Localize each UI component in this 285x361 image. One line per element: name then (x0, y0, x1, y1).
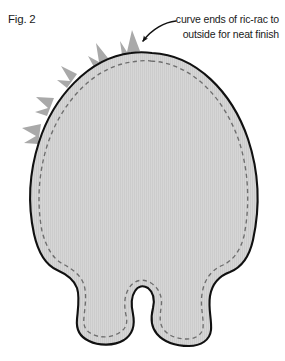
callout-text: curve ends of ric-rac to outside for nea… (176, 12, 279, 41)
pattern-diagram-svg (0, 0, 285, 361)
callout-line-1: curve ends of ric-rac to (176, 12, 279, 27)
callout-arrow (143, 21, 176, 41)
figure-label: Fig. 2 (8, 14, 36, 26)
callout-line-2: outside for neat finish (176, 27, 279, 42)
body-pattern-piece (30, 52, 257, 346)
figure-stage: Fig. 2 curve ends of ric-rac to outside … (0, 0, 285, 361)
